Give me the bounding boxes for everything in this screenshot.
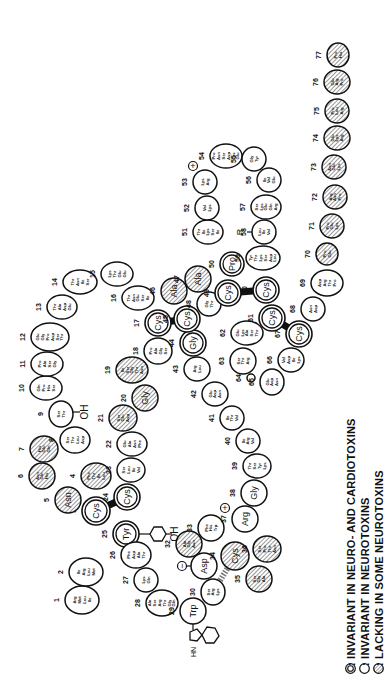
residue-label: Ala bbox=[261, 575, 266, 582]
residue-number: 12 bbox=[19, 333, 26, 341]
residue-label: Asp bbox=[80, 436, 85, 444]
residue-label: Lys bbox=[215, 588, 220, 596]
residue-16: ThrAsnGluSerIle16 bbox=[110, 286, 154, 310]
residue-52: ValLys52 bbox=[183, 196, 219, 220]
residue-label: Met bbox=[91, 568, 96, 576]
residue-number: 33 bbox=[186, 524, 193, 532]
residue-label: Trp bbox=[188, 604, 198, 617]
residue-number: 2 bbox=[57, 570, 64, 574]
residue-label: Ser bbox=[163, 347, 168, 354]
residue-42: GluAspAsn42 bbox=[190, 382, 228, 406]
residue-label: Pro bbox=[332, 279, 337, 286]
residue-label: Asp bbox=[199, 558, 209, 574]
residue-2: IleArgLeuMet2 bbox=[57, 558, 103, 586]
residue-label: Asn bbox=[191, 540, 196, 548]
residue-number: 7 bbox=[18, 447, 25, 451]
oh-label: OH bbox=[169, 527, 180, 542]
residue-56: IleValGlu56 bbox=[245, 168, 281, 192]
residue-number: 64 bbox=[235, 374, 242, 382]
residue-label: Ser bbox=[85, 278, 90, 285]
residue-label: Cys bbox=[91, 503, 101, 519]
residue-62: GluLysAlaSerThr62 bbox=[219, 321, 263, 345]
residue-number: 8 bbox=[48, 438, 55, 442]
residue-number: 50 bbox=[208, 260, 215, 268]
residue-number: 55 bbox=[230, 155, 237, 163]
residue-number: 65 bbox=[248, 378, 255, 386]
residue-label: Cys bbox=[267, 310, 277, 326]
residue-label: Lys bbox=[336, 163, 341, 171]
residue-13: ThrAlaAspGlu13 bbox=[35, 295, 77, 319]
residue-9: SerThr9 bbox=[37, 401, 73, 427]
residue-number: 49 bbox=[203, 289, 210, 297]
residue-label: Gly bbox=[140, 391, 150, 405]
residue-label: Gln bbox=[171, 599, 176, 606]
residue-77: ProHis77 bbox=[315, 43, 349, 67]
residue-chain: ArgMetLeuIle1IleArgLeuMet2Cys3PheThrIleL… bbox=[17, 43, 350, 624]
residue-40: IleArgVal40 bbox=[224, 429, 260, 453]
residue-5: Asn5 bbox=[43, 487, 81, 513]
neurotoxin-sequence-diagram: ArgMetLeuIle1IleArgLeuMet2Cys3PheThrIleL… bbox=[0, 0, 390, 674]
residue-number: 72 bbox=[311, 193, 318, 201]
residue-label: Thr bbox=[59, 333, 64, 340]
residue-number: 14 bbox=[51, 278, 58, 286]
residue-number: 18 bbox=[132, 347, 139, 355]
residue-label: Pro bbox=[339, 78, 344, 85]
residue-number: 62 bbox=[219, 329, 226, 337]
residue-label: Glu bbox=[271, 176, 276, 183]
residue-number: 38 bbox=[229, 489, 236, 497]
residue-65: GluAspAsn65 bbox=[248, 369, 284, 395]
residue-38: Gly38 bbox=[229, 480, 267, 506]
residue-label: Arg bbox=[240, 512, 250, 526]
residue-75: ProLeuArg75 bbox=[313, 99, 349, 123]
legend-label: : LACKING IN SOME NEUROTOXINS bbox=[372, 470, 386, 666]
residue-number: 15 bbox=[89, 270, 96, 278]
residue-41: IleThrVal41 bbox=[208, 406, 244, 430]
residue-label: Arg bbox=[205, 178, 210, 186]
residue-number: 56 bbox=[245, 176, 252, 184]
residue-number: 39 bbox=[231, 462, 238, 470]
residue-number: 46 bbox=[149, 287, 156, 295]
residue-number: 28 bbox=[134, 599, 141, 607]
residue-number: 27 bbox=[122, 576, 129, 584]
residue-label: Arg bbox=[273, 203, 278, 211]
residue-label: Leu bbox=[272, 254, 277, 262]
residue-label: His bbox=[44, 472, 49, 479]
residue-label: Cys bbox=[122, 489, 132, 505]
residue-number: 43 bbox=[172, 365, 179, 373]
residue-number: 54 bbox=[198, 152, 205, 160]
residue-number: 17 bbox=[133, 319, 140, 327]
residue-number: 67 bbox=[274, 330, 281, 338]
residue-51: ThrIleLysSerIle51 bbox=[181, 220, 223, 244]
residue-label: Val bbox=[136, 467, 141, 473]
residue-label: Tyr bbox=[121, 528, 131, 541]
residue-label: Lys bbox=[207, 204, 212, 212]
residue-label: Arg bbox=[245, 357, 250, 365]
residue-number: 63 bbox=[218, 357, 225, 365]
residue-label: Gly bbox=[188, 336, 198, 350]
residue-73: AsnGluLys73 bbox=[310, 155, 346, 179]
residue-number: 10 bbox=[18, 384, 25, 392]
residue-number: 45 bbox=[162, 315, 169, 323]
residue-26: PheAspAlaThr26 bbox=[109, 542, 151, 568]
residue-number: 59 bbox=[234, 254, 241, 262]
residue-label: Glu bbox=[327, 250, 332, 257]
residue-number: 21 bbox=[97, 414, 104, 422]
residue-label: Asn bbox=[272, 545, 277, 553]
legend-item-invariant-neuro-cardio: : INVARIANT IN NEURO- AND CARDIOTOXINS bbox=[344, 318, 358, 674]
residue-number: 40 bbox=[224, 437, 231, 445]
residue-number: 44 bbox=[168, 339, 175, 347]
legend-item-lacking: : LACKING IN SOME NEUROTOXINS bbox=[372, 318, 386, 674]
residue-label: Ala bbox=[193, 272, 203, 285]
residue-number: 36 bbox=[241, 545, 248, 553]
residue-58: LeuIleVal58 bbox=[240, 220, 276, 244]
indole-benzene-icon bbox=[202, 627, 219, 643]
residue-label: Gln bbox=[146, 576, 151, 583]
residue-12: GluGlyProAspSerThr12 bbox=[19, 323, 69, 351]
residue-76: GluArgPro76 bbox=[312, 70, 350, 94]
residue-1: ArgMetLeuIle1 bbox=[53, 586, 99, 614]
residue-number: 75 bbox=[313, 107, 320, 115]
residue-number: 42 bbox=[190, 390, 197, 398]
residue-label: Pro bbox=[337, 193, 342, 200]
residue-number: 1 bbox=[53, 598, 60, 602]
residue-number: 35 bbox=[234, 575, 241, 583]
